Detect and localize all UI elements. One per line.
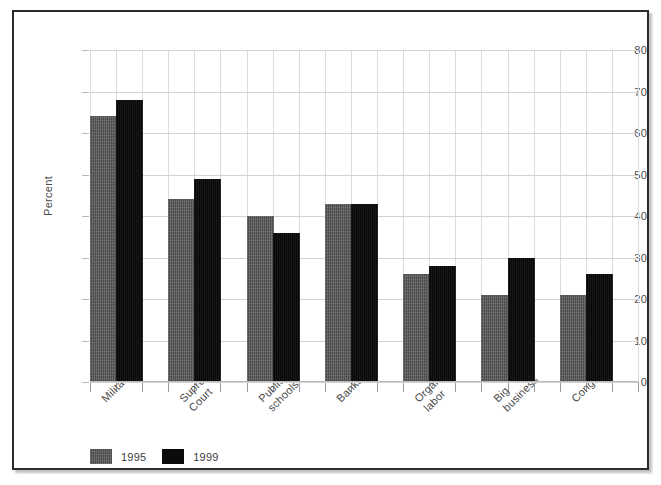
y-axis-tick-mark bbox=[82, 50, 89, 51]
bar-1999-congress bbox=[586, 274, 613, 382]
chart-figure: Percent 01020304050607080 MilitarySuprem… bbox=[0, 0, 661, 485]
x-axis-tick-mark bbox=[142, 382, 143, 392]
bar-1995-congress bbox=[560, 295, 587, 382]
y-axis-tick-mark bbox=[82, 382, 89, 383]
bar-1999-organized-labor bbox=[429, 266, 456, 382]
gridline-horizontal bbox=[90, 175, 638, 176]
gridline-vertical bbox=[638, 50, 639, 382]
legend-entry-1999[interactable]: 1999 bbox=[162, 449, 218, 464]
plot-area bbox=[90, 50, 638, 382]
bar-1999-banks bbox=[351, 204, 378, 382]
y-axis-tick-mark bbox=[82, 258, 89, 259]
x-axis-tick-mark bbox=[481, 382, 482, 392]
y-axis-tick-mark bbox=[82, 341, 89, 342]
y-axis-tick-mark bbox=[82, 175, 89, 176]
x-axis-tick-mark bbox=[638, 382, 639, 392]
gridline-horizontal bbox=[90, 50, 638, 51]
y-axis-tick-mark bbox=[82, 92, 89, 93]
legend-label: 1999 bbox=[193, 451, 218, 463]
x-axis-tick-mark bbox=[403, 382, 404, 392]
y-axis-title: Percent bbox=[42, 176, 54, 216]
series-1995-swatch bbox=[90, 449, 112, 464]
x-axis-tick-mark bbox=[560, 382, 561, 392]
bar-1995-public-schools bbox=[247, 216, 274, 382]
x-axis-tick-mark bbox=[90, 382, 91, 392]
x-axis-tick-mark bbox=[612, 382, 613, 392]
x-axis-tick-mark bbox=[377, 382, 378, 392]
x-axis-baseline bbox=[90, 381, 638, 382]
bar-1999-public-schools bbox=[273, 233, 300, 382]
bar-1995-big-business bbox=[481, 295, 508, 382]
chart-frame: Percent 01020304050607080 MilitarySuprem… bbox=[12, 10, 649, 470]
x-axis-tick-mark bbox=[168, 382, 169, 392]
bar-1999-big-business bbox=[508, 258, 535, 383]
legend-entry-1995[interactable]: 1995 bbox=[90, 449, 146, 464]
gridline-horizontal bbox=[90, 382, 638, 383]
gridline-horizontal bbox=[90, 133, 638, 134]
legend-label: 1995 bbox=[121, 451, 146, 463]
x-axis-tick-mark bbox=[247, 382, 248, 392]
y-axis-tick-mark bbox=[82, 133, 89, 134]
series-1999-swatch bbox=[162, 449, 184, 464]
bar-1995-banks bbox=[325, 204, 352, 382]
bar-1995-military bbox=[90, 116, 117, 382]
chart-legend: 19951999 bbox=[90, 449, 219, 464]
bar-1995-supreme-court bbox=[168, 199, 195, 382]
bar-1995-organized-labor bbox=[403, 274, 430, 382]
y-axis-tick-mark bbox=[82, 299, 89, 300]
gridline-horizontal bbox=[90, 92, 638, 93]
bar-1999-military bbox=[116, 100, 143, 382]
bar-1999-supreme-court bbox=[194, 179, 221, 382]
y-axis-tick-mark bbox=[82, 216, 89, 217]
x-axis-tick-mark bbox=[325, 382, 326, 392]
